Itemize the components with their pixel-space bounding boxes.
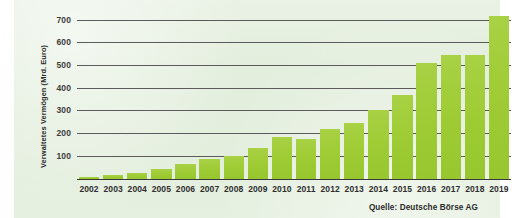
plot-area: 100200300400500600700 200220032004200520… [77,6,511,179]
bar[interactable] [272,137,292,179]
bar-slot[interactable]: 2008 [222,6,246,179]
bar-slot[interactable]: 2012 [318,6,342,179]
bar[interactable] [489,16,509,179]
bar[interactable] [175,164,195,179]
bar[interactable] [441,55,461,179]
bar[interactable] [296,139,316,179]
bar[interactable] [151,169,171,178]
y-axis-tick-label: 100 [57,151,71,161]
bar-slot[interactable]: 2003 [101,6,125,179]
x-axis-tick-label: 2014 [366,184,390,194]
bar[interactable] [344,123,364,179]
bar-slot[interactable]: 2015 [390,6,414,179]
x-axis-tick-label: 2019 [487,184,511,194]
x-axis-tick-label: 2018 [463,184,487,194]
x-axis-tick-label: 2016 [415,184,439,194]
bar[interactable] [368,110,388,178]
x-axis-tick-label: 2007 [198,184,222,194]
y-axis-tick-label: 500 [57,60,71,70]
bar[interactable] [224,156,244,179]
bar-slot[interactable]: 2005 [149,6,173,179]
x-axis-tick-label: 2002 [77,184,101,194]
bar-slot[interactable]: 2010 [270,6,294,179]
y-axis-tick-label: 700 [57,15,71,25]
bar-slot[interactable]: 2009 [246,6,270,179]
bar-slot[interactable]: 2002 [77,6,101,179]
bar-slot[interactable]: 2004 [125,6,149,179]
bar-slot[interactable]: 2007 [198,6,222,179]
x-axis-line [77,179,511,180]
bar-slot[interactable]: 2016 [415,6,439,179]
x-axis-tick-label: 2008 [222,184,246,194]
x-axis-tick-label: 2015 [390,184,414,194]
x-axis-tick-label: 2013 [342,184,366,194]
x-axis-tick-label: 2006 [173,184,197,194]
bar-slot[interactable]: 2006 [173,6,197,179]
source-caption: Quelle: Deutsche Börse AG [369,203,478,212]
bars-group: 2002200320042005200620072008200920102011… [77,6,511,179]
bar[interactable] [416,63,436,178]
bar-slot[interactable]: 2019 [487,6,511,179]
chart-figure: Verwaltetes Vermögen (Mrd. Euro) 1002003… [0,0,518,218]
y-axis-tick-label: 600 [57,37,71,47]
bar-slot[interactable]: 2018 [463,6,487,179]
bar[interactable] [465,55,485,178]
chart-panel: Verwaltetes Vermögen (Mrd. Euro) 1002003… [14,0,500,218]
bar[interactable] [248,148,268,179]
bar[interactable] [199,159,219,178]
bar[interactable] [320,129,340,179]
x-axis-tick-label: 2017 [439,184,463,194]
y-axis-tick-label: 300 [57,105,71,115]
x-axis-tick-label: 2010 [270,184,294,194]
y-axis-tick-label: 400 [57,83,71,93]
bar-slot[interactable]: 2011 [294,6,318,179]
x-axis-tick-label: 2009 [246,184,270,194]
bar[interactable] [392,95,412,179]
x-axis-tick-label: 2005 [149,184,173,194]
x-axis-tick-label: 2004 [125,184,149,194]
x-axis-tick-label: 2003 [101,184,125,194]
bar-slot[interactable]: 2017 [439,6,463,179]
x-axis-tick-label: 2012 [318,184,342,194]
bar-slot[interactable]: 2014 [366,6,390,179]
y-axis-title: Verwaltetes Vermögen (Mrd. Euro) [39,48,48,168]
x-axis-tick-label: 2011 [294,184,318,194]
bar-slot[interactable]: 2013 [342,6,366,179]
y-axis-tick-label: 200 [57,128,71,138]
